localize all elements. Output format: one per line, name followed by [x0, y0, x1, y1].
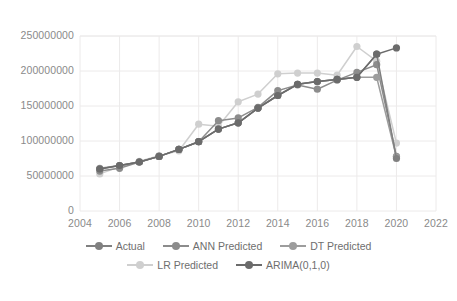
legend-label: ANN Predicted	[193, 240, 262, 252]
y-axis-tick-label: 50000000	[0, 169, 74, 181]
y-axis-tick-label: 0	[0, 204, 74, 216]
legend-marker-icon	[236, 259, 262, 271]
data-point	[175, 146, 182, 153]
data-point	[116, 162, 123, 169]
data-point	[254, 91, 261, 98]
y-axis-tick-label: 100000000	[0, 134, 74, 146]
x-axis-tick-label: 2004	[60, 217, 100, 229]
data-point	[393, 44, 400, 51]
x-axis-tick-label: 2006	[100, 217, 140, 229]
data-point	[156, 153, 163, 160]
legend-dot-icon	[289, 242, 297, 250]
series-actual	[96, 51, 400, 173]
data-point	[195, 121, 202, 128]
series-line	[100, 48, 397, 169]
data-point	[353, 43, 360, 50]
legend-dot-icon	[172, 242, 180, 250]
legend-marker-icon	[280, 240, 306, 252]
chart-plot-area: 2500000002000000001500000001000000005000…	[0, 0, 457, 238]
data-point	[314, 70, 321, 77]
series-line	[100, 47, 397, 174]
data-point	[393, 155, 400, 162]
data-point	[254, 105, 261, 112]
data-point	[373, 74, 380, 81]
legend-item-dt-predicted[interactable]: DT Predicted	[280, 240, 371, 252]
legend-marker-icon	[127, 259, 153, 271]
legend-dot-icon	[95, 242, 103, 250]
legend-label: ARIMA(0,1,0)	[266, 259, 330, 271]
x-axis-tick-label: 2010	[179, 217, 219, 229]
legend-item-ann-predicted[interactable]: ANN Predicted	[163, 240, 262, 252]
x-axis-tick-label: 2012	[218, 217, 258, 229]
legend-label: LR Predicted	[157, 259, 218, 271]
y-axis-tick-label: 150000000	[0, 99, 74, 111]
y-axis-tick-label: 250000000	[0, 29, 74, 41]
x-axis-tick-label: 2008	[139, 217, 179, 229]
x-axis-tick-label: 2020	[376, 217, 416, 229]
chart-root: 2500000002000000001500000001000000005000…	[0, 0, 457, 301]
data-point	[274, 92, 281, 99]
data-point	[96, 165, 103, 172]
legend-item-arima-0-1-0[interactable]: ARIMA(0,1,0)	[236, 259, 330, 271]
data-point	[215, 117, 222, 124]
legend-row: ActualANN PredictedDT Predicted	[77, 240, 381, 252]
gridlines	[80, 36, 436, 211]
legend-dot-icon	[245, 261, 253, 269]
data-point	[274, 70, 281, 77]
data-point	[294, 81, 301, 88]
x-axis-tick-label: 2014	[258, 217, 298, 229]
legend-item-actual[interactable]: Actual	[86, 240, 145, 252]
legend-dot-icon	[136, 261, 144, 269]
series-arima-0-1-0	[96, 44, 400, 172]
data-point	[353, 74, 360, 81]
chart-legend: ActualANN PredictedDT PredictedLR Predic…	[0, 240, 457, 296]
data-point	[314, 78, 321, 85]
series-lr-predicted	[96, 43, 400, 178]
legend-label: Actual	[116, 240, 145, 252]
legend-row: LR PredictedARIMA(0,1,0)	[118, 259, 338, 271]
y-axis-tick-label: 200000000	[0, 64, 74, 76]
legend-marker-icon	[86, 240, 112, 252]
data-point	[235, 98, 242, 105]
data-point	[334, 76, 341, 83]
data-point	[235, 119, 242, 126]
legend-label: DT Predicted	[310, 240, 371, 252]
series-line	[100, 77, 397, 168]
x-axis-tick-label: 2016	[297, 217, 337, 229]
series-line	[100, 65, 397, 171]
data-point	[314, 86, 321, 93]
data-point	[373, 51, 380, 58]
series-dt-predicted	[96, 74, 400, 172]
x-axis-tick-label: 2018	[337, 217, 377, 229]
legend-item-lr-predicted[interactable]: LR Predicted	[127, 259, 218, 271]
data-point	[195, 138, 202, 145]
data-point	[294, 70, 301, 77]
data-point	[136, 158, 143, 165]
data-point	[215, 126, 222, 133]
legend-marker-icon	[163, 240, 189, 252]
x-axis-tick-label: 2022	[416, 217, 456, 229]
